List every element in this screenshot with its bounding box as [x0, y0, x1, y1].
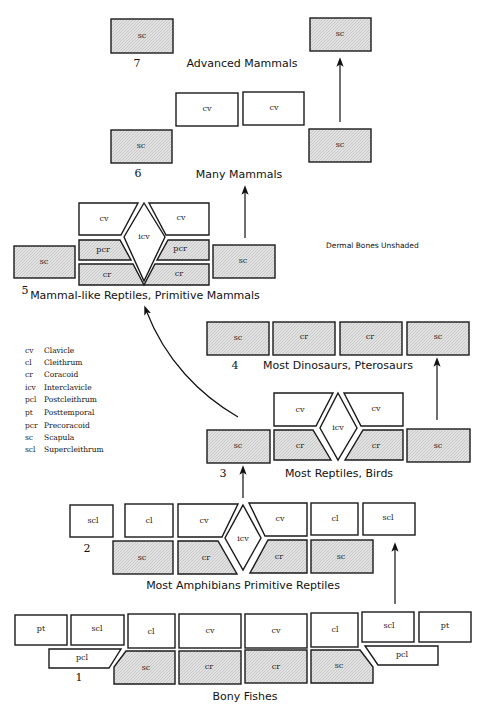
legend-abbr: scl	[25, 445, 36, 454]
bone-label: cr	[202, 553, 210, 562]
legend-name: Posttemporal	[44, 408, 95, 417]
legend-name: Scapula	[44, 433, 75, 442]
bone-label: sc	[234, 441, 243, 450]
stage-2: scl cl cv cv icv cl scl sc cr cr sc 2 Mo…	[70, 503, 415, 592]
legend-abbr: icv	[25, 383, 37, 392]
bone-label: cv	[203, 104, 212, 113]
bone-label: pt	[441, 621, 450, 630]
stage-title: Advanced Mammals	[186, 57, 297, 70]
stage-title: Bony Fishes	[212, 690, 277, 703]
bone-label: cv	[296, 405, 305, 414]
bone-label: cr	[366, 332, 374, 341]
bone-label: sc	[336, 140, 345, 149]
shoulder-girdle-evolution-diagram: sc sc 7 Advanced Mammals cv cv sc sc 6 M…	[0, 0, 486, 709]
legend-abbr: cv	[25, 346, 34, 355]
bone-label: sc	[434, 441, 443, 450]
bone-label: sc	[239, 256, 248, 265]
legend-name: Precoracoid	[44, 421, 90, 430]
bone-label: pt	[37, 624, 46, 633]
legend-abbr: pcr	[25, 421, 38, 430]
bone-label: cv	[206, 626, 215, 635]
bone-label: cl	[145, 516, 152, 525]
bone-label: sc	[335, 661, 344, 670]
bone-label: sc	[138, 553, 147, 562]
bone-label: sc	[142, 663, 151, 672]
stage-title: Most Dinosaurs, Pterosaurs	[263, 359, 413, 372]
bone-label: cv	[200, 516, 209, 525]
bone-label: cv	[276, 514, 285, 523]
bone-label: icv	[237, 534, 249, 543]
stage-number: 4	[232, 359, 239, 372]
stage-number: 1	[76, 671, 83, 684]
stage-title: Most Reptiles, Birds	[285, 467, 393, 480]
bone-label: pcr	[173, 244, 187, 253]
legend-name: Clavicle	[44, 346, 75, 355]
bone-label: cv	[177, 213, 186, 222]
bone-label: sc	[137, 141, 146, 150]
bone-label: cr	[300, 332, 308, 341]
bone-label: cr	[272, 662, 280, 671]
bone-label: cv	[372, 404, 381, 413]
note-dermal-bones: Dermal Bones Unshaded	[326, 241, 419, 250]
stage-3: cv cv icv cr cr sc sc 3 Most Reptiles, B…	[207, 393, 470, 480]
bone-label: scl	[383, 621, 395, 630]
bone-label: sc	[138, 31, 147, 40]
legend: cv Clavicle cl Cleithrum cr Coracoid icv…	[25, 346, 104, 454]
bone-label: sc	[40, 257, 49, 266]
bone-label: sc	[337, 552, 346, 561]
legend-abbr: cr	[25, 370, 33, 379]
stage-title: Many Mammals	[196, 168, 283, 181]
bone-label: cr	[372, 441, 380, 450]
legend-abbr: pcl	[25, 395, 37, 404]
bone-label: pcr	[96, 245, 110, 254]
stage-number: 5	[22, 284, 29, 297]
bone-label: cr	[275, 552, 283, 561]
legend-name: Coracoid	[44, 370, 78, 379]
stage-number: 2	[84, 542, 91, 555]
bone-label: cr	[296, 441, 304, 450]
bone-label: pcl	[76, 653, 89, 662]
bone-label: sc	[234, 333, 243, 342]
bone-label: cv	[100, 214, 109, 223]
bone-label: scl	[87, 516, 99, 525]
stage-number: 7	[134, 57, 141, 70]
bone-label: sc	[434, 332, 443, 341]
bone-label: cr	[103, 270, 111, 279]
stage-4: sc cr cr sc 4 Most Dinosaurs, Pterosaurs	[207, 322, 469, 372]
bone-label: icv	[138, 232, 150, 241]
legend-abbr: pt	[25, 408, 33, 417]
bone-label: cl	[147, 627, 154, 636]
stage-title: Most Amphibians Primitive Reptiles	[146, 579, 340, 592]
legend-name: Supercleithrum	[44, 445, 104, 454]
bone-label: cr	[205, 662, 213, 671]
stage-number: 3	[220, 467, 227, 480]
legend-abbr: cl	[25, 358, 32, 367]
stage-title: Mammal-like Reptiles, Primitive Mammals	[30, 289, 260, 302]
stage-7: sc sc 7 Advanced Mammals	[111, 18, 371, 70]
legend-name: Interclavicle	[44, 383, 92, 392]
stage-number: 6	[135, 167, 142, 180]
bone-label: cv	[270, 103, 279, 112]
legend-abbr: sc	[25, 433, 33, 442]
stage-1: pt scl cl cv cv cl scl pt pcl pcl sc cr …	[15, 612, 471, 703]
bone-label: icv	[332, 423, 344, 432]
stage-6: cv cv sc sc 6 Many Mammals	[111, 92, 371, 181]
stage-5: cv cv icv pcr pcr cr cr sc sc 5 Mammal-l…	[14, 203, 275, 302]
bone-label: scl	[382, 513, 394, 522]
legend-name: Cleithrum	[44, 358, 82, 367]
bone-label: cl	[331, 514, 338, 523]
bone-label: scl	[91, 624, 103, 633]
bone-label: sc	[336, 29, 345, 38]
bone-label: pcl	[396, 650, 409, 659]
bone-label: cv	[272, 626, 281, 635]
legend-name: Postcleithrum	[44, 395, 97, 404]
bone-label: cl	[331, 625, 338, 634]
bone-label: cr	[175, 269, 183, 278]
